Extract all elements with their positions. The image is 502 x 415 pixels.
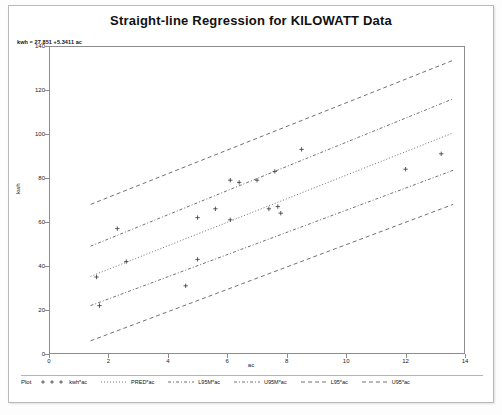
y-tick-mark bbox=[45, 134, 49, 135]
legend-label: U95M*ac bbox=[264, 379, 287, 385]
data-point bbox=[228, 178, 232, 182]
y-tick-label: 100 bbox=[35, 131, 45, 137]
data-point bbox=[228, 218, 232, 222]
chart-frame: Straight-line Regression for KILOWATT Da… bbox=[8, 5, 494, 403]
plot-canvas bbox=[49, 46, 465, 354]
chart-title: Straight-line Regression for KILOWATT Da… bbox=[9, 13, 493, 28]
y-tick-label: 140 bbox=[35, 43, 45, 49]
legend-swatch bbox=[362, 379, 388, 385]
data-point bbox=[276, 204, 280, 208]
legend-label: U95*ac bbox=[392, 379, 410, 385]
chart-legend: Plot kwh*acPRED*acL95M*acU95M*acL95*acU9… bbox=[21, 375, 483, 393]
data-point bbox=[273, 169, 277, 173]
x-tick-label: 0 bbox=[47, 358, 50, 364]
y-tick-label: 80 bbox=[38, 175, 45, 181]
x-tick-mark bbox=[346, 354, 347, 358]
plot-area: 020406080100120140 02468101214 bbox=[49, 46, 465, 354]
y-axis-label: kwh bbox=[15, 183, 21, 194]
chart-page: Straight-line Regression for KILOWATT Da… bbox=[0, 0, 502, 415]
x-tick-mark bbox=[406, 354, 407, 358]
y-tick-mark bbox=[45, 310, 49, 311]
x-tick-mark bbox=[465, 354, 466, 358]
legend-swatch bbox=[168, 379, 194, 385]
legend-entry: L95M*ac bbox=[168, 379, 220, 385]
y-tick-label: 40 bbox=[38, 263, 45, 269]
y-tick-label: 20 bbox=[38, 307, 45, 313]
data-point bbox=[255, 178, 259, 182]
data-point bbox=[279, 211, 283, 215]
regression-line bbox=[91, 204, 454, 340]
regression-equation-annotation: kwh = 27.851 +5.3411 ac bbox=[17, 39, 82, 45]
legend-label: kwh*ac bbox=[69, 379, 87, 385]
data-point bbox=[195, 215, 199, 219]
legend-entry: U95*ac bbox=[362, 379, 410, 385]
x-tick-mark bbox=[168, 354, 169, 358]
x-tick-label: 2 bbox=[107, 358, 110, 364]
legend-entry: U95M*ac bbox=[234, 379, 287, 385]
legend-label: L95M*ac bbox=[198, 379, 220, 385]
y-tick-label: 60 bbox=[38, 219, 45, 225]
x-tick-label: 14 bbox=[462, 358, 469, 364]
data-point bbox=[94, 275, 98, 279]
regression-line bbox=[91, 170, 454, 305]
x-tick-mark bbox=[227, 354, 228, 358]
y-tick-mark bbox=[45, 222, 49, 223]
regression-line bbox=[91, 133, 454, 276]
data-point bbox=[97, 303, 101, 307]
regression-line bbox=[91, 60, 454, 204]
data-point bbox=[267, 207, 271, 211]
data-point bbox=[299, 147, 303, 151]
legend-title: Plot bbox=[21, 379, 31, 385]
data-point bbox=[213, 207, 217, 211]
data-point bbox=[237, 180, 241, 184]
legend-label: PRED*ac bbox=[131, 379, 154, 385]
data-point bbox=[403, 167, 407, 171]
x-tick-label: 12 bbox=[402, 358, 409, 364]
legend-entry: kwh*ac bbox=[39, 379, 87, 385]
y-tick-mark bbox=[45, 178, 49, 179]
x-tick-mark bbox=[287, 354, 288, 358]
x-tick-mark bbox=[108, 354, 109, 358]
legend-swatch bbox=[301, 379, 327, 385]
legend-swatch bbox=[234, 379, 260, 385]
legend-swatch bbox=[39, 379, 65, 385]
legend-swatch bbox=[101, 379, 127, 385]
y-tick-mark bbox=[45, 46, 49, 47]
data-point bbox=[195, 257, 199, 261]
x-axis-label: ac bbox=[9, 362, 493, 368]
legend-entry: L95*ac bbox=[301, 379, 348, 385]
data-point bbox=[439, 152, 443, 156]
y-tick-mark bbox=[45, 90, 49, 91]
data-point bbox=[115, 226, 119, 230]
data-point bbox=[183, 284, 187, 288]
x-tick-label: 4 bbox=[166, 358, 169, 364]
x-tick-label: 10 bbox=[343, 358, 350, 364]
x-tick-label: 8 bbox=[285, 358, 288, 364]
y-tick-label: 120 bbox=[35, 87, 45, 93]
legend-row: Plot kwh*acPRED*acL95M*acU95M*acL95*acU9… bbox=[21, 379, 483, 385]
x-tick-label: 6 bbox=[226, 358, 229, 364]
legend-entry: PRED*ac bbox=[101, 379, 154, 385]
legend-label: L95*ac bbox=[331, 379, 348, 385]
y-tick-mark bbox=[45, 266, 49, 267]
regression-line bbox=[91, 99, 454, 246]
x-tick-mark bbox=[49, 354, 50, 358]
